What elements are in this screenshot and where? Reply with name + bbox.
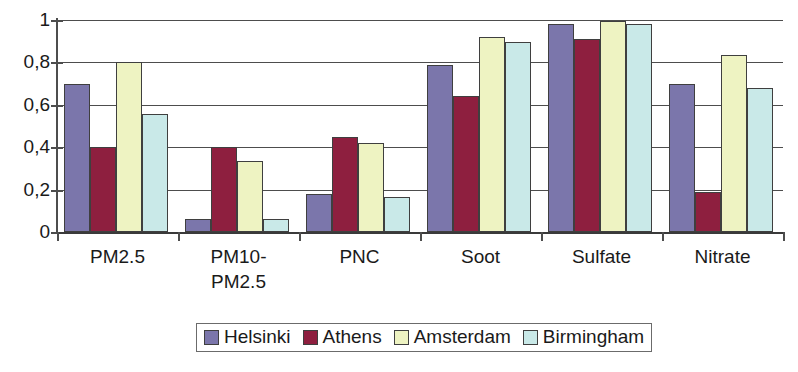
legend-swatch-icon <box>303 330 318 345</box>
bar <box>306 194 332 232</box>
bar <box>479 37 505 232</box>
bar <box>626 24 652 232</box>
bar-chart-figure: 00,20,40,60,81 PM2.5PM10- PM2.5PNCSootSu… <box>0 0 798 372</box>
bar <box>116 62 142 232</box>
x-tick-label: PM10- PM2.5 <box>178 244 299 294</box>
legend-label: Helsinki <box>224 327 291 347</box>
legend-label: Amsterdam <box>414 327 511 347</box>
y-tick-label: 1 <box>4 10 50 29</box>
bar <box>263 219 289 232</box>
bar <box>695 192 721 232</box>
bar <box>332 137 358 232</box>
bars-layer <box>57 20 783 232</box>
x-tick-mark <box>420 232 422 241</box>
bar <box>185 219 211 232</box>
legend-swatch-icon <box>394 330 409 345</box>
legend-swatch-icon <box>523 330 538 345</box>
y-tick-label: 0,6 <box>4 95 50 114</box>
legend-item[interactable]: Helsinki <box>204 327 291 347</box>
bar <box>237 161 263 232</box>
y-tick-label: 0,8 <box>4 52 50 71</box>
y-tick-mark <box>51 147 63 149</box>
x-tick-mark <box>299 232 301 241</box>
legend-item[interactable]: Amsterdam <box>394 327 511 347</box>
y-tick-mark <box>51 190 63 192</box>
y-tick-label: 0,4 <box>4 137 50 156</box>
bar <box>453 96 479 232</box>
bar <box>669 84 695 232</box>
bar <box>505 42 531 232</box>
legend-swatch-icon <box>204 330 219 345</box>
x-tick-label: Sulfate <box>541 244 662 269</box>
bar <box>427 65 453 232</box>
x-tick-label: Soot <box>420 244 541 269</box>
x-tick-mark <box>178 232 180 241</box>
bar <box>574 39 600 232</box>
y-tick-label: 0,2 <box>4 180 50 199</box>
x-tick-label: PNC <box>299 244 420 269</box>
bar <box>721 55 747 232</box>
x-tick-mark <box>541 232 543 241</box>
legend-label: Athens <box>323 327 382 347</box>
bar <box>747 88 773 232</box>
legend-item[interactable]: Athens <box>303 327 382 347</box>
x-tick-mark <box>662 232 664 241</box>
x-tick-mark <box>783 232 785 241</box>
bar <box>211 147 237 232</box>
y-tick-mark <box>51 105 63 107</box>
bar <box>90 147 116 232</box>
y-tick-mark <box>51 62 63 64</box>
y-tick-label: 0 <box>4 222 50 241</box>
bar <box>384 197 410 232</box>
plot-area <box>57 20 783 232</box>
legend-label: Birmingham <box>543 327 644 347</box>
bar <box>64 84 90 232</box>
y-tick-mark <box>51 20 63 22</box>
bar <box>548 24 574 232</box>
x-tick-mark <box>57 232 59 241</box>
legend-item[interactable]: Birmingham <box>523 327 644 347</box>
x-tick-label: PM2.5 <box>57 244 178 269</box>
bar <box>142 114 168 232</box>
bar <box>358 143 384 232</box>
chart-legend: HelsinkiAthensAmsterdamBirmingham <box>196 323 652 352</box>
bar <box>600 21 626 232</box>
x-tick-label: Nitrate <box>662 244 783 269</box>
